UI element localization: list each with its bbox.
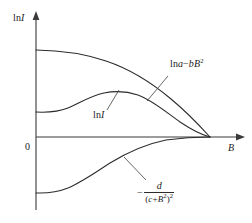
y-axis-label-ln: ln [13,12,21,23]
leader-line-bottom-curve [124,157,146,180]
leader-line-mid-curve [107,90,119,110]
y-axis-label: lnI [13,13,24,23]
annotation-top-curve: lna−bB2 [170,58,204,69]
y-axis-label-var: I [21,12,24,23]
annotation-mid-ln: ln [93,109,101,120]
figure-canvas: lnI B 0 lna−bB2 lnI − d (c+B2)2 [0,0,252,223]
x-axis-label: B [228,143,234,153]
x-axis-arrowhead [236,134,245,141]
annotation-bottom-sign: − [137,188,143,198]
annotation-mid-curve: lnI [93,110,104,120]
fraction-denominator: (c+B2)2 [144,193,174,205]
annotation-mid-var: I [101,109,104,120]
y-axis-arrowhead [33,11,40,20]
annotation-top-exponent: 2 [200,57,203,64]
plot-svg [0,0,252,223]
origin-label: 0 [25,142,30,152]
den-outer-exponent: 2 [170,192,173,199]
curve-ln-I [36,92,210,137]
annotation-top-ln: ln [170,58,178,69]
leader-line-top-curve [147,76,168,101]
curve-neg-d-over-c-plus-B2-sq [36,137,210,193]
annotation-bottom-curve: − d (c+B2)2 [137,181,174,204]
fraction-numerator: d [154,181,165,192]
annotation-bottom-fraction: d (c+B2)2 [144,181,174,204]
